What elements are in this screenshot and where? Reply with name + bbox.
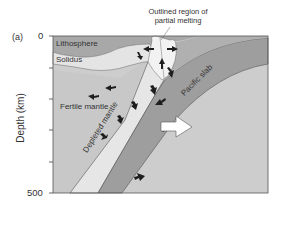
solidus-label: Solidus [56, 56, 82, 64]
lithosphere-label: Lithosphere [56, 40, 98, 48]
depth-tick-0: 0 [38, 31, 43, 41]
fertile-mantle-label: Fertile mantle [60, 103, 108, 111]
depth-axis-label: Depth (km) [15, 93, 26, 142]
depth-tick-500: 500 [27, 188, 43, 198]
